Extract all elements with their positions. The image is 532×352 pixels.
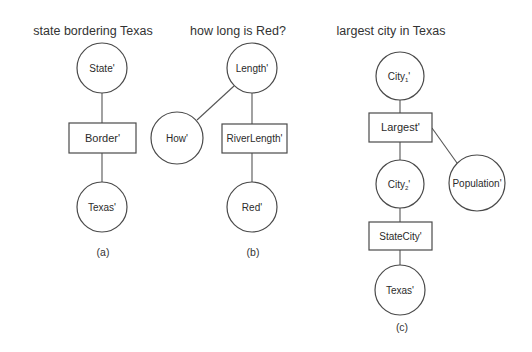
title-b: how long is Red?	[190, 24, 286, 38]
diagram-c: City1' Largest' Population' City2' State…	[369, 52, 505, 333]
svg-text:Population': Population'	[452, 178, 501, 189]
diagram-a: State' Border' Texas' (a)	[69, 43, 136, 258]
node-texas-a: Texas'	[77, 182, 127, 232]
node-largest: Largest'	[369, 113, 432, 142]
svg-text:How': How'	[166, 133, 188, 144]
edge-length-how	[197, 86, 234, 120]
node-city2: City2'	[376, 160, 424, 208]
node-how: How'	[151, 112, 203, 164]
node-city1: City1'	[376, 52, 424, 100]
svg-text:Border': Border'	[85, 132, 120, 144]
svg-text:Texas': Texas'	[88, 202, 116, 213]
caption-b: (b)	[247, 246, 260, 258]
node-statecity: StateCity'	[369, 222, 432, 250]
svg-text:RiverLength': RiverLength'	[227, 133, 283, 144]
svg-text:State': State'	[89, 63, 114, 74]
svg-text:Largest': Largest'	[381, 121, 420, 133]
svg-text:Texas': Texas'	[386, 285, 414, 296]
title-c: largest city in Texas	[337, 24, 446, 38]
caption-a: (a)	[97, 246, 110, 258]
svg-text:Length': Length'	[236, 63, 269, 74]
svg-text:Red': Red'	[242, 202, 262, 213]
node-state: State'	[77, 43, 127, 93]
diagram-b: Length' How' RiverLength' Red' (b)	[151, 43, 287, 258]
svg-text:StateCity': StateCity'	[379, 231, 422, 242]
node-texas-c: Texas'	[375, 265, 425, 315]
edge-largest-population	[432, 128, 457, 163]
node-red: Red'	[227, 182, 277, 232]
node-length: Length'	[227, 43, 277, 93]
node-border: Border'	[69, 123, 136, 153]
title-a: state bordering Texas	[33, 24, 152, 38]
node-population: Population'	[449, 155, 505, 211]
diagram-canvas: state bordering Texas how long is Red? l…	[0, 0, 532, 352]
node-riverlength: RiverLength'	[222, 124, 287, 153]
caption-c: (c)	[396, 321, 408, 333]
